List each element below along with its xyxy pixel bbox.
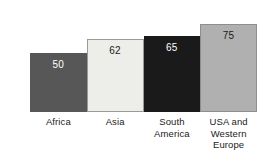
category-label-line: Africa [30,116,87,128]
category-axis-labels: Africa Asia SouthAmerica USA andWesternE… [30,114,257,151]
bar-usa-western-europe[interactable]: 75 [200,24,257,112]
bar-column-south-america: 65 [144,18,201,112]
bar-south-america[interactable]: 65 [144,36,201,112]
category-label-asia: Asia [87,114,144,151]
category-label-line: Western [200,128,257,140]
category-label-line: America [144,128,201,140]
bar-africa[interactable]: 50 [30,53,87,112]
bar-value-usa-western-europe: 75 [201,30,256,41]
category-label-line: USA and [200,116,257,128]
category-label-south-america: SouthAmerica [144,114,201,151]
category-label-line: Asia [87,116,144,128]
bar-asia[interactable]: 62 [87,39,144,112]
category-label-line: Europe [200,139,257,151]
bar-column-usa-western-europe: 75 [200,18,257,112]
bar-value-asia: 62 [88,45,143,56]
bar-column-asia: 62 [87,18,144,112]
bar-value-south-america: 65 [145,42,200,53]
category-label-usa-western-europe: USA andWesternEurope [200,114,257,151]
category-label-africa: Africa [30,114,87,151]
category-label-line: South [144,116,201,128]
bar-chart: 50 62 65 75 Africa Asia SouthAmerica USA… [0,0,270,155]
bar-column-africa: 50 [30,18,87,112]
plot-area: 50 62 65 75 [30,18,257,112]
bar-value-africa: 50 [31,59,86,70]
